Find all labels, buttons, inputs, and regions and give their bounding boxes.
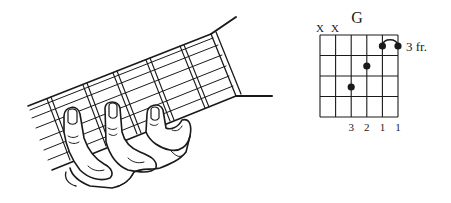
- chord-name: G: [351, 9, 363, 26]
- string-marker-1: X: [316, 22, 324, 34]
- fretboard-grid: [320, 35, 398, 117]
- guitar-hand-illustration: [28, 17, 272, 188]
- string-marker-2: X: [331, 22, 339, 34]
- chord-figure: G X X 3 fr. 3 2: [0, 0, 451, 203]
- finger-dot-string6-fret1: [394, 42, 401, 49]
- fingering-string6: 1: [395, 121, 401, 133]
- finger-dot-string4-fret2: [363, 62, 370, 69]
- fingering-string4: 2: [364, 121, 370, 133]
- finger-dot-string3-fret3: [348, 83, 355, 90]
- chord-diagram: G X X 3 fr. 3 2: [316, 9, 427, 133]
- finger-dot-string5-fret1: [379, 42, 386, 49]
- fingering-string5: 1: [380, 121, 386, 133]
- fret-position-label: 3 fr.: [406, 39, 427, 54]
- fingering-string3: 3: [348, 121, 354, 133]
